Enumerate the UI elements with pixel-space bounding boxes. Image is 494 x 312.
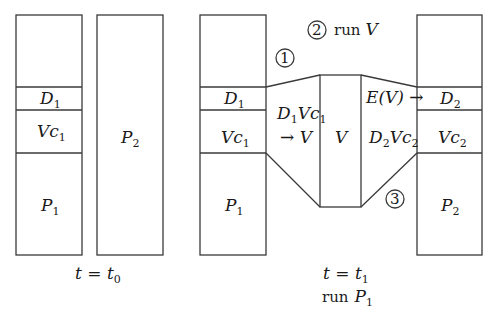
connector-bottom-right [361, 153, 417, 207]
left-diagram: D1 Vc1 P1 P2 t = t0 [16, 15, 163, 286]
connector-top-left [266, 75, 320, 87]
step-2-text: runV [334, 19, 380, 39]
virus-infection-diagram: D1 Vc1 P1 P2 t = t0 D1 Vc1 P1 D2 Vc2 P2 … [0, 0, 494, 312]
region-d1: D1 [39, 88, 61, 111]
transfer-d2vc2: D2Vc2 [368, 127, 418, 150]
connector-top-right [361, 75, 417, 87]
region-p2: P2 [440, 195, 459, 218]
virus-label: V [335, 127, 349, 147]
run-p1-caption: runP1 [322, 286, 373, 309]
step-3-marker: 3 [386, 190, 404, 208]
step-1-marker: 1 [276, 49, 294, 67]
connector-bottom-left [266, 153, 320, 207]
transfer-ev: E(V) → [365, 87, 424, 107]
svg-text:2: 2 [312, 21, 322, 39]
transfer-to-v: → V [280, 127, 314, 147]
transfer-d1vc1: D1Vc1 [276, 103, 326, 126]
region-vc1: Vc1 [221, 127, 250, 150]
caption-t1: t = t1 [323, 263, 369, 286]
region-d1: D1 [223, 88, 245, 111]
step-2-marker: 2 runV [308, 19, 380, 39]
right-diagram: D1 Vc1 P1 D2 Vc2 P2 V D1Vc1 → V E(V) → D… [200, 15, 482, 309]
region-p1: P1 [40, 195, 59, 218]
svg-text:3: 3 [390, 190, 400, 208]
region-d2: D2 [439, 88, 461, 111]
region-p2: P2 [120, 127, 139, 150]
region-vc2: Vc2 [438, 127, 467, 150]
caption-t0: t = t0 [75, 263, 121, 286]
region-p1: P1 [224, 195, 243, 218]
region-vc1: Vc1 [37, 121, 66, 144]
svg-text:1: 1 [280, 49, 290, 67]
